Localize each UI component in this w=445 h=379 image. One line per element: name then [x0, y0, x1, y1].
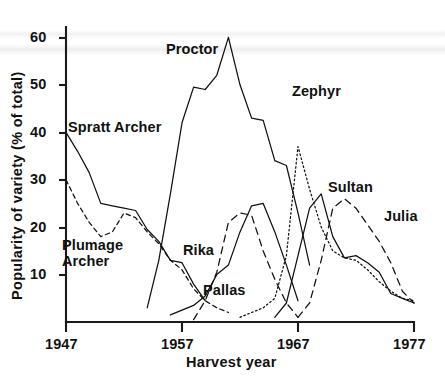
series-label-spratt-archer: Spratt Archer: [68, 120, 161, 136]
curve-spratt-archer: [66, 132, 205, 300]
series-label-rika: Rika: [183, 243, 214, 259]
series-label-plumage-archer: Plumage Archer: [62, 237, 123, 269]
curve-zephyr: [240, 147, 414, 318]
series-label-sultan: Sultan: [328, 180, 373, 196]
y-tick-label-10: 10: [30, 267, 46, 283]
y-axis-title: Popularity of variety (% of total): [10, 71, 26, 300]
series-label-julia: Julia: [384, 209, 418, 225]
curve-proctor: [147, 37, 309, 307]
y-tick-label-30: 30: [30, 172, 46, 188]
x-tick-label-1977: 1977: [393, 337, 426, 353]
plot-area: [0, 0, 445, 379]
x-tick-label-1957: 1957: [161, 337, 194, 353]
series-label-pallas: Pallas: [203, 283, 246, 299]
chart-figure: 60 50 40 30 20 10 1947 1957 1967 1977 Po…: [0, 0, 445, 379]
series-label-zephyr: Zephyr: [292, 84, 341, 100]
y-tick-label-20: 20: [30, 220, 46, 236]
series-label-proctor: Proctor: [166, 42, 218, 58]
x-tick-label-1967: 1967: [277, 337, 310, 353]
series-label-plumage-archer-line2: Archer: [62, 253, 109, 269]
y-tick-label-40: 40: [30, 125, 46, 141]
y-tick-label-60: 60: [30, 30, 46, 46]
x-axis-title: Harvest year: [186, 355, 277, 371]
series-label-plumage-archer-line1: Plumage: [62, 237, 123, 253]
x-tick-label-1947: 1947: [45, 337, 78, 353]
y-tick-label-50: 50: [30, 77, 46, 93]
